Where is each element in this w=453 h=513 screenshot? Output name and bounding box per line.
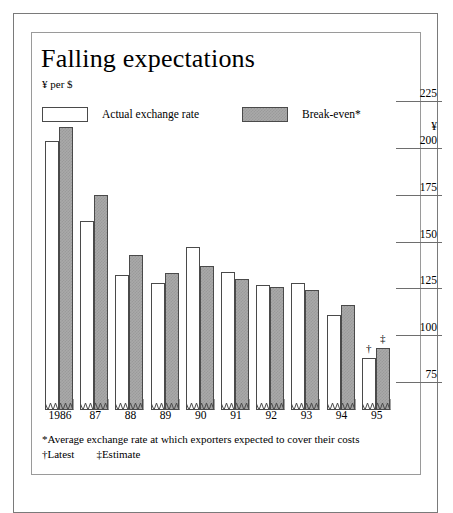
axis-tick-label: 125 xyxy=(396,274,437,286)
bar-breakeven xyxy=(341,305,355,410)
footnote-dagger: †Latest xyxy=(42,448,74,460)
bar-group xyxy=(115,90,145,410)
axis-tick-label: 175 xyxy=(396,181,437,193)
bar-actual xyxy=(151,283,165,410)
bar-actual xyxy=(45,141,59,410)
bars-layer: †‡ xyxy=(41,90,396,410)
axis-tick-label: 200 xyxy=(396,134,437,146)
axis-tick-line xyxy=(396,195,442,196)
axis-tick-line xyxy=(396,101,442,102)
bar-actual xyxy=(291,283,305,410)
bar-annotation-latest: † xyxy=(362,343,376,354)
footnote-daggers: †Latest‡Estimate xyxy=(42,447,392,461)
category-label: 93 xyxy=(289,408,323,422)
category-label: 1986 xyxy=(43,408,77,422)
axis-tick-label: 225 xyxy=(396,87,437,99)
bar-group xyxy=(327,90,357,410)
bar-breakeven xyxy=(165,273,179,410)
bar-breakeven xyxy=(200,266,214,410)
bar-actual xyxy=(80,221,94,410)
axis-tick-line xyxy=(396,242,442,243)
category-label: 88 xyxy=(113,408,147,422)
axis-tick-label: 100 xyxy=(396,321,437,333)
category-label: 87 xyxy=(78,408,112,422)
plot-area: †‡ xyxy=(41,90,396,410)
bar-group xyxy=(80,90,110,410)
bar-actual xyxy=(186,247,200,410)
axis-tick-label: 75 xyxy=(396,368,437,380)
chart-title: Falling expectations xyxy=(41,44,255,74)
footnote-asterisk: *Average exchange rate at which exporter… xyxy=(42,432,392,446)
footnotes: *Average exchange rate at which exporter… xyxy=(42,432,392,461)
category-label: 91 xyxy=(219,408,253,422)
axis-tick-line xyxy=(396,335,442,336)
bar-group xyxy=(256,90,286,410)
bar-breakeven xyxy=(270,287,284,411)
bar-group: †‡ xyxy=(362,90,392,410)
bar-actual xyxy=(221,272,235,410)
axis-tick-line xyxy=(396,148,442,149)
bar-breakeven xyxy=(94,195,108,410)
bar-group xyxy=(291,90,321,410)
footnote-doubledagger: ‡Estimate xyxy=(96,448,140,460)
bar-breakeven xyxy=(129,255,143,410)
category-label: 95 xyxy=(360,408,394,422)
bar-group xyxy=(151,90,181,410)
value-axis: 22520017515012510075¥ xyxy=(396,90,453,410)
bar-breakeven xyxy=(59,127,73,410)
bar-actual xyxy=(256,285,270,410)
axis-tick-label: 150 xyxy=(396,228,437,240)
bar-actual xyxy=(327,315,341,410)
axis-currency-label: ¥ xyxy=(396,120,437,132)
bar-group xyxy=(221,90,251,410)
category-label: 90 xyxy=(184,408,218,422)
category-label: 89 xyxy=(149,408,183,422)
category-axis: 1986878889909192939495 xyxy=(41,408,396,426)
bar-actual xyxy=(115,275,129,410)
category-label: 94 xyxy=(325,408,359,422)
category-label: 92 xyxy=(254,408,288,422)
bar-group xyxy=(45,90,75,410)
bar-breakeven xyxy=(305,290,319,410)
bar-annotation-estimate: ‡ xyxy=(376,333,390,344)
bar-breakeven xyxy=(235,279,249,410)
bar-group xyxy=(186,90,216,410)
axis-tick-line xyxy=(396,382,442,383)
axis-tick-line xyxy=(396,288,442,289)
